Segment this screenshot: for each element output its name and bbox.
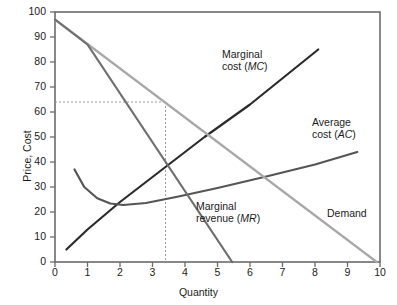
series-label-marginal-revenue: Marginalrevenue (MR) [196, 200, 260, 224]
y-tick-label: 40 [20, 155, 46, 167]
x-tick-label: 4 [173, 266, 197, 278]
y-tick-label: 0 [20, 255, 46, 267]
x-axis-label: Quantity [0, 286, 397, 298]
y-tick-label: 60 [20, 105, 46, 117]
y-tick-label: 20 [20, 205, 46, 217]
x-tick-label: 10 [368, 266, 392, 278]
x-tick-label: 3 [141, 266, 165, 278]
y-tick-label: 100 [20, 5, 46, 17]
series-label-demand: Demand [327, 207, 367, 219]
x-tick-label: 0 [43, 266, 67, 278]
x-tick-label: 6 [238, 266, 262, 278]
chart-figure: Price, Cost Quantity Marginalcost (MC) A… [0, 0, 397, 305]
guide-lines [55, 102, 166, 262]
x-tick-label: 1 [76, 266, 100, 278]
y-tick-label: 10 [20, 230, 46, 242]
x-tick-label: 8 [303, 266, 327, 278]
y-tick-label: 30 [20, 180, 46, 192]
series-label-marginal-cost: Marginalcost (MC) [222, 48, 268, 72]
x-tick-label: 2 [108, 266, 132, 278]
chart-canvas [0, 0, 397, 305]
y-tick-label: 70 [20, 80, 46, 92]
y-tick-label: 90 [20, 30, 46, 42]
y-tick-label: 50 [20, 130, 46, 142]
series-label-average-cost: Averagecost (AC) [312, 116, 356, 140]
y-tick-label: 80 [20, 55, 46, 67]
x-tick-label: 7 [271, 266, 295, 278]
x-tick-label: 5 [206, 266, 230, 278]
x-tick-label: 9 [336, 266, 360, 278]
data-series [55, 20, 377, 263]
